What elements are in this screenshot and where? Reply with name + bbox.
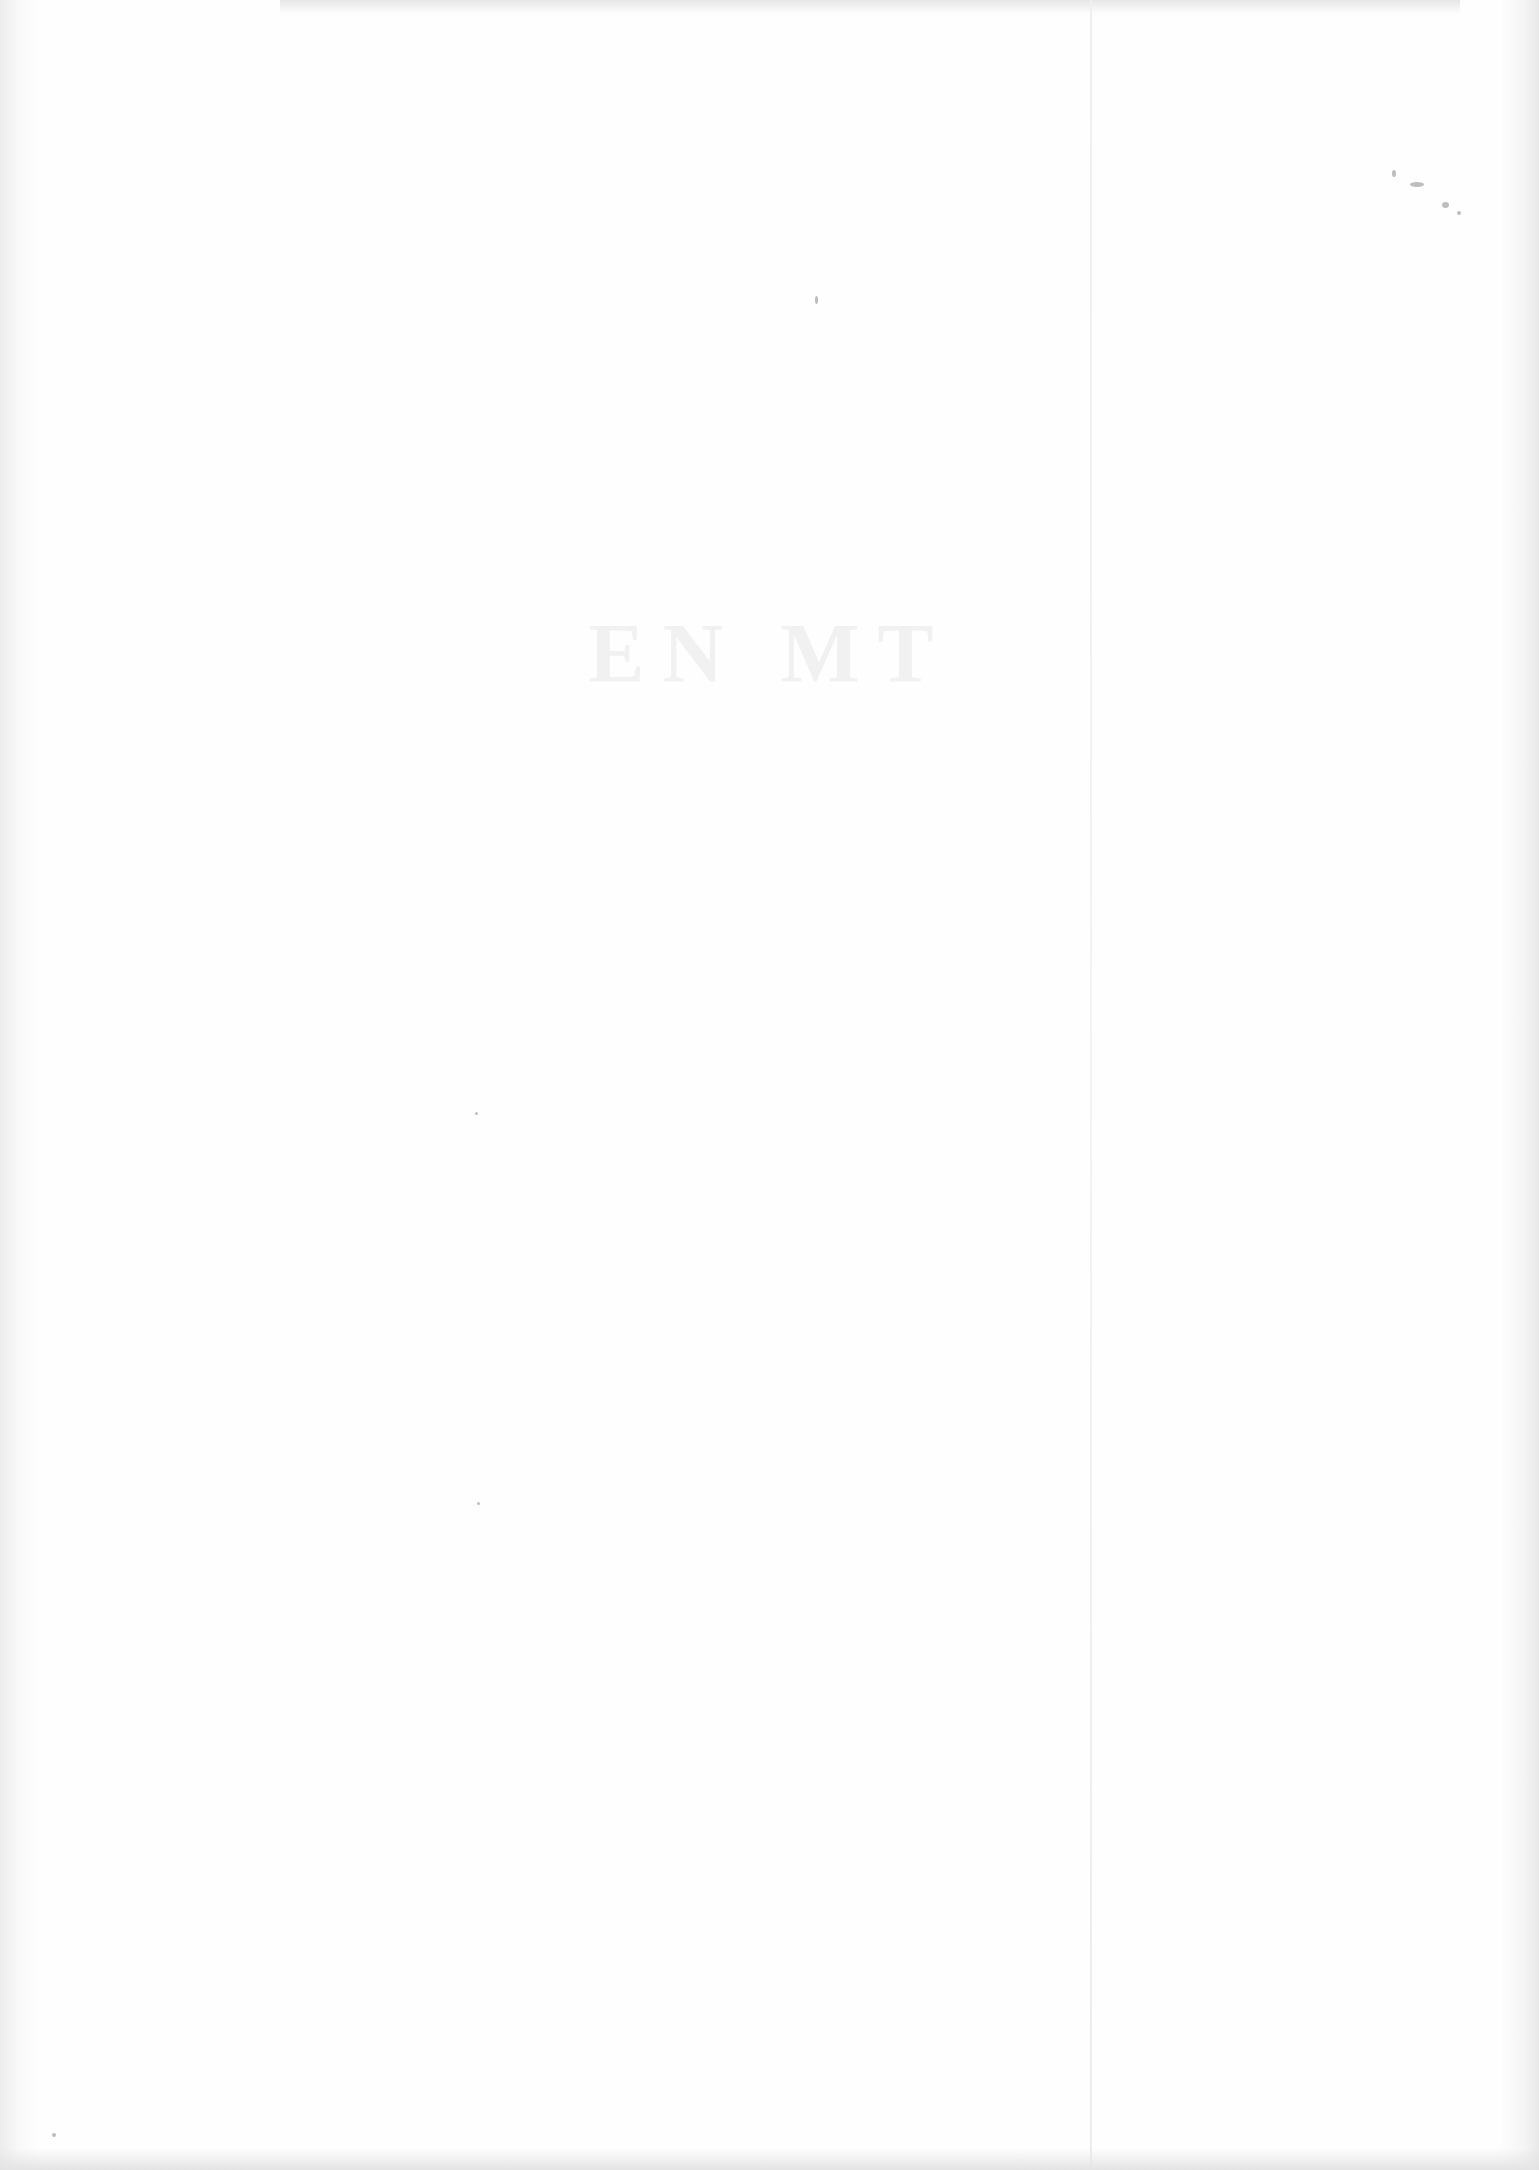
bottom-edge-shadow	[0, 2148, 1539, 2170]
speck	[52, 2133, 56, 2137]
speck	[1457, 211, 1461, 215]
speck	[1392, 170, 1396, 177]
speck	[1442, 202, 1449, 208]
bleed-through-text: EN MT	[140, 605, 1400, 702]
fold-line	[1090, 0, 1092, 2170]
speck	[1410, 182, 1424, 187]
scanned-page: EN MT	[0, 0, 1539, 2170]
speck	[477, 1502, 480, 1505]
top-edge-shadow	[280, 0, 1460, 14]
speck	[475, 1112, 478, 1115]
speck	[815, 296, 818, 304]
